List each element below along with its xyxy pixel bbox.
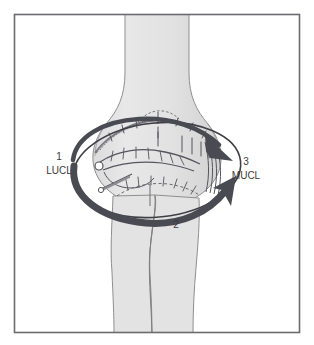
label-right-name: MUCL [232,170,261,181]
elbow-illustration: 1 LUCL 2 3 MUCL [0,0,314,345]
needle-eye [98,187,103,192]
label-left-number: 1 [56,151,62,162]
label-right-number: 3 [243,156,249,167]
label-bottom-number: 2 [173,219,179,230]
label-left-name: LUCL [46,165,72,176]
figure-container: 1 LUCL 2 3 MUCL [0,0,314,345]
radial-head-marker [95,162,103,170]
